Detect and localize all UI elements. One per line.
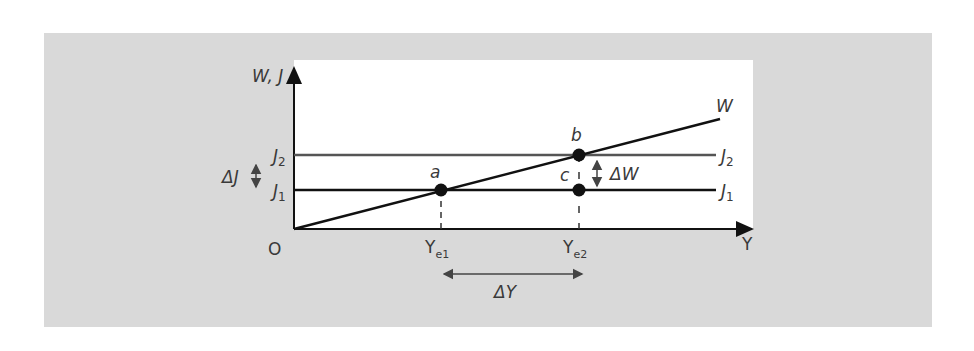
- point-b-label: b: [571, 125, 582, 145]
- x-axis-label: Y: [741, 234, 753, 254]
- w-line-label: W: [716, 96, 734, 116]
- keynesian-cross-diagram: W, J Y O W J2 J1 J2 J1 ΔJ ΔW ΔY a b c Ye…: [0, 0, 974, 351]
- point-c: [573, 184, 586, 197]
- y-axis-label: W, J: [252, 66, 283, 86]
- delta-y-label: ΔY: [492, 282, 518, 302]
- plot-area: [294, 60, 753, 229]
- delta-w-label: ΔW: [608, 164, 640, 184]
- j2-tick-label: J2: [270, 146, 286, 169]
- point-b: [573, 149, 586, 162]
- origin-label: O: [268, 239, 281, 259]
- ye1-label: Ye1: [424, 237, 449, 261]
- point-c-label: c: [560, 165, 570, 185]
- ye2-label: Ye2: [562, 237, 587, 261]
- point-a-label: a: [430, 162, 440, 182]
- delta-j-label: ΔJ: [220, 167, 239, 187]
- point-a: [435, 184, 448, 197]
- j1-tick-label: J1: [270, 181, 286, 204]
